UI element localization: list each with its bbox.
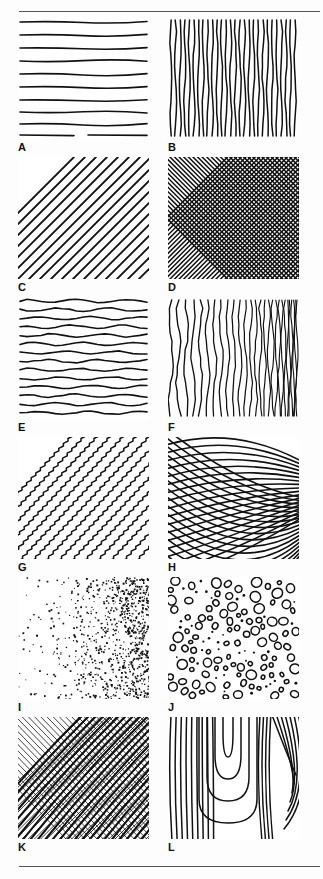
panel-row: A B xyxy=(0,17,323,157)
panel-label-c: C xyxy=(18,279,161,297)
panel-label-d: D xyxy=(168,279,322,297)
panel-label-e: E xyxy=(18,419,161,437)
panel-label-i: I xyxy=(18,699,161,717)
panel-row: E F xyxy=(0,297,323,437)
top-rule xyxy=(19,11,320,12)
panel-cell-c: C xyxy=(0,157,161,297)
panel-cell-h: H xyxy=(161,437,322,577)
panel-cell-f: F xyxy=(161,297,322,437)
pattern-e-wavy-horizontal-lines xyxy=(18,297,149,419)
panel-label-k: K xyxy=(18,839,161,857)
figure-caption xyxy=(19,870,320,879)
pattern-c-diagonal-straight-lines xyxy=(18,157,149,279)
panel-cell-k: K xyxy=(0,717,161,857)
pattern-a-horizontal-straight-lines xyxy=(18,17,149,139)
panel-label-j: J xyxy=(168,699,322,717)
pattern-l-wood-grain-contours xyxy=(168,717,299,839)
panel-row: K L xyxy=(0,717,323,857)
panel-row: C D xyxy=(0,157,323,297)
panel-cell-i: I xyxy=(0,577,161,717)
panel-row: I J xyxy=(0,577,323,717)
panel-cell-d: D xyxy=(161,157,322,297)
panel-cell-l: L xyxy=(161,717,322,857)
pattern-k-curved-contour-crosshatch xyxy=(18,717,149,839)
panel-label-g: G xyxy=(18,559,161,577)
pattern-f-wavy-vertical-gradient xyxy=(168,297,299,419)
panel-cell-a: A xyxy=(0,17,161,157)
panel-label-b: B xyxy=(168,139,322,157)
panel-row: G H xyxy=(0,437,323,577)
panel-label-h: H xyxy=(168,559,322,577)
panel-cell-j: J xyxy=(161,577,322,717)
panel-cell-e: E xyxy=(0,297,161,437)
bottom-rule xyxy=(19,866,320,867)
panel-cell-g: G xyxy=(0,437,161,577)
panel-label-f: F xyxy=(168,419,322,437)
pattern-j-pebble-outline-texture xyxy=(168,577,299,699)
panel-label-a: A xyxy=(18,139,161,157)
pattern-g-zigzag-diagonal-lines xyxy=(18,437,149,559)
pattern-d-diagonal-crosshatch xyxy=(168,157,299,279)
pattern-h-curved-crosshatch-mesh xyxy=(168,437,299,559)
panel-cell-b: B xyxy=(161,17,322,157)
figure-plate: A B C xyxy=(0,0,323,879)
panel-grid: A B C xyxy=(0,17,323,857)
panel-label-l: L xyxy=(168,839,322,857)
pattern-i-stipple-dot-gradient xyxy=(18,577,149,699)
pattern-b-vertical-straight-lines xyxy=(168,17,299,139)
